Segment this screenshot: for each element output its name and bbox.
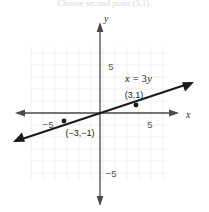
equation-equals: = (133, 73, 139, 84)
x-tick-label-negative-5: −5 (43, 119, 54, 130)
graph-figure: Choose second point (3,1). (0, 0, 209, 212)
point-label-neg3-neg1: (−3,−1) (65, 128, 94, 138)
y-tick-label-negative-5: −5 (106, 168, 117, 179)
equation-lhs: x (124, 73, 130, 84)
x-axis-label: x (185, 109, 191, 120)
equation-rhs-var: y (146, 73, 152, 84)
coordinate-plane-svg: x y 5 −5 5 −5 x=3y (3,1) (−3,−1) (0, 0, 209, 212)
equation-label: x=3y (124, 73, 152, 84)
x-axis (15, 110, 179, 117)
y-axis-label: y (103, 13, 109, 24)
data-point-marker (134, 103, 139, 108)
x-tick-label-positive-5: 5 (147, 119, 152, 130)
y-tick-label-positive-5: 5 (108, 61, 113, 72)
equation-coefficient: 3 (142, 73, 147, 84)
point-label-3-1: (3,1) (125, 90, 144, 100)
data-point-marker (62, 119, 67, 124)
